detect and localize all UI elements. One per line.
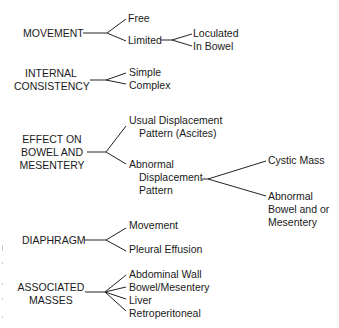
branch-limited: Limited	[128, 34, 162, 47]
category-line: CONSISTENCY	[14, 80, 88, 93]
scan-artifact	[2, 298, 3, 300]
branch-abnormal-displacement: Abnormal Displacement Pattern	[129, 158, 203, 197]
branch-liver: Liver	[129, 294, 152, 307]
category-effect-on-bowel: EFFECT ON BOWEL AND MESENTERY	[18, 133, 86, 172]
category-diaphragm: DIAPHRAGM	[22, 234, 86, 247]
branch-line: Bowel and or	[268, 203, 329, 216]
branch-simple: Simple	[129, 66, 161, 79]
branch-usual-displacement: Usual Displacement Pattern (Ascites)	[129, 114, 222, 140]
branch-line: Displacement	[129, 171, 203, 184]
category-associated-masses: ASSOCIATED MASSES	[17, 281, 85, 307]
branch-complex: Complex	[129, 79, 170, 92]
diagram-canvas: MOVEMENT Free Limited Loculated In Bowel…	[0, 0, 339, 328]
branch-line: Pattern	[129, 184, 203, 197]
category-line: ASSOCIATED	[17, 281, 85, 294]
branch-bowel-mesentery: Bowel/Mesentery	[129, 281, 210, 294]
branch-line: Abnormal	[268, 190, 329, 203]
category-line: EFFECT ON	[18, 133, 86, 146]
scan-artifact	[2, 316, 3, 318]
scan-artifact	[2, 245, 3, 251]
category-line: MASSES	[17, 294, 85, 307]
scan-artifact	[2, 283, 3, 285]
branch-in-bowel: In Bowel	[193, 40, 233, 53]
branch-free: Free	[128, 12, 150, 25]
branch-abdominal-wall: Abdominal Wall	[129, 268, 202, 281]
branch-line: Usual Displacement	[129, 114, 222, 127]
branch-abnormal-bowel: Abnormal Bowel and or Mesentery	[268, 190, 329, 229]
branch-movement: Movement	[129, 219, 178, 232]
branch-pleural-effusion: Pleural Effusion	[129, 243, 202, 256]
branch-line: Pattern (Ascites)	[129, 127, 222, 140]
branch-line: Abnormal	[129, 158, 203, 171]
scan-artifact	[2, 262, 3, 264]
branch-cystic-mass: Cystic Mass	[268, 154, 325, 167]
category-line: MESENTERY	[18, 159, 86, 172]
category-movement: MOVEMENT	[23, 27, 84, 40]
branch-loculated: Loculated	[193, 27, 239, 40]
branch-retroperitoneal: Retroperitoneal	[129, 307, 201, 320]
category-internal-consistency: INTERNAL CONSISTENCY	[14, 67, 88, 93]
category-line: BOWEL AND	[18, 146, 86, 159]
category-line: INTERNAL	[14, 67, 88, 80]
branch-line: Mesentery	[268, 216, 329, 229]
